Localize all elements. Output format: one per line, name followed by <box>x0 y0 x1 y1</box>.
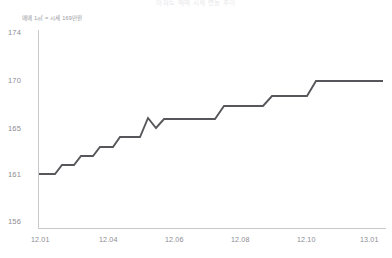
y-tick-label: 165 <box>8 125 34 133</box>
x-tick-label: 12.06 <box>165 236 184 244</box>
x-tick-label: 13.01 <box>360 236 379 244</box>
y-tick-170: 170 <box>8 77 34 85</box>
price-line-series <box>39 81 383 174</box>
y-tick-label: 170 <box>8 77 34 85</box>
x-tick-label: 12.08 <box>231 236 250 244</box>
x-axis-line <box>38 228 386 229</box>
x-tick-label: 12.01 <box>31 236 50 244</box>
y-tick-165: 165 <box>8 125 34 133</box>
y-tick-label: 156 <box>8 218 34 226</box>
x-tick-label: 12.04 <box>99 236 118 244</box>
chart-title: 아파트 매매 시세 변동 추이 <box>0 0 392 7</box>
plot-area <box>0 0 392 258</box>
y-tick-161: 161 <box>8 171 34 179</box>
y-tick-156: 156 <box>8 218 34 226</box>
chart-subtitle: 매매 1㎡ = 시세 169만원 <box>22 14 82 22</box>
y-tick-label: 161 <box>8 171 34 179</box>
y-tick-174: 174 <box>8 29 34 37</box>
y-axis-line <box>38 30 39 228</box>
y-tick-label: 174 <box>8 29 34 37</box>
x-tick-label: 12.10 <box>297 236 316 244</box>
price-trend-chart: 아파트 매매 시세 변동 추이 매매 1㎡ = 시세 169만원 1741701… <box>0 0 392 258</box>
